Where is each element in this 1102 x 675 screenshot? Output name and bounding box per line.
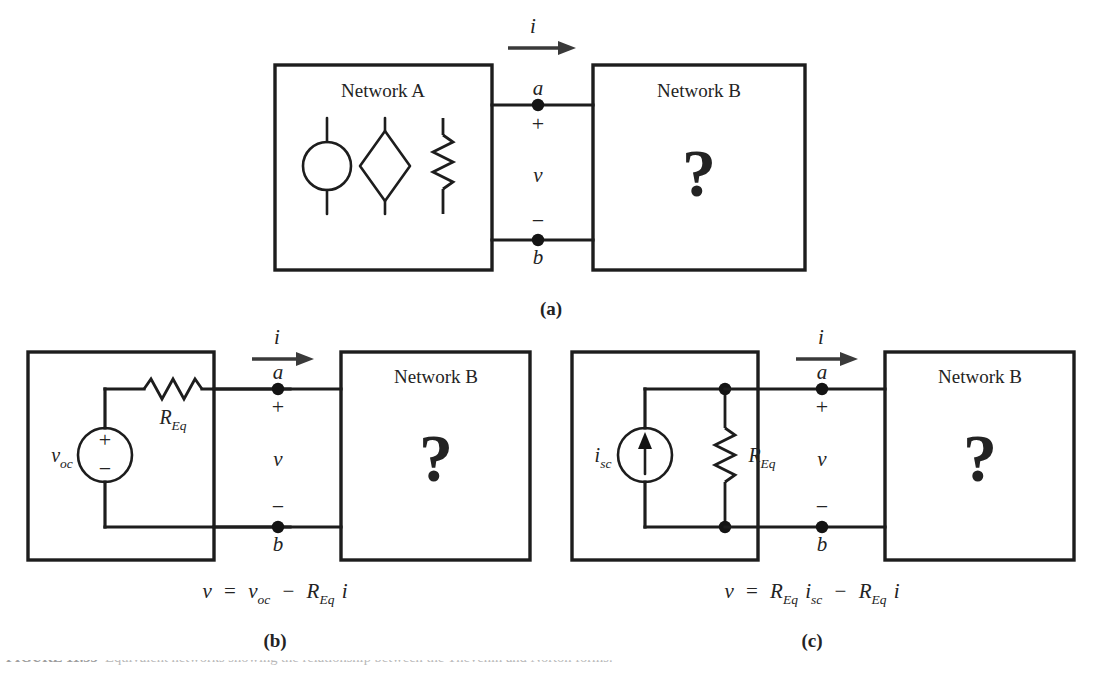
panel-a: Network A i a +: [275, 14, 805, 320]
panel-c-node-a-label: a: [817, 360, 828, 384]
panel-b-equation: v = voc − REq i: [202, 579, 347, 609]
panel-a-voltage-label: v: [533, 163, 543, 187]
panel-c-label: (c): [801, 630, 822, 652]
panel-a-minus-label: −: [532, 208, 544, 233]
panel-c-resistor-icon: [715, 389, 735, 527]
figure-caption-number: FIGURE 11.55: [6, 660, 98, 665]
current-source-icon: [618, 428, 672, 482]
panel-a-current-arrow-icon: [508, 41, 576, 55]
voltage-source-icon: + −: [78, 427, 132, 482]
current-source-label: isc: [595, 444, 612, 471]
panel-c: isc REq i a + v − b: [572, 325, 1074, 652]
panel-c-plus-label: +: [816, 394, 828, 419]
panel-a-question-mark: ?: [682, 135, 716, 211]
panel-c-minus-label: −: [816, 494, 828, 519]
panel-b-question-mark: ?: [419, 420, 453, 496]
panel-a-label: (a): [540, 298, 562, 320]
panel-a-network-b-title: Network B: [657, 80, 741, 101]
figure-caption-text: Equivalent networks showing the relation…: [105, 660, 613, 665]
panel-b: + − voc REq i a + v − b: [28, 325, 530, 652]
panel-c-current-label: i: [818, 325, 824, 349]
dependent-source-diamond-icon: [360, 118, 410, 214]
figure-root: Network A i a +: [0, 0, 1102, 675]
panel-b-minus-label: −: [272, 494, 284, 519]
panel-b-current-label: i: [274, 325, 280, 349]
figure-caption-strip: FIGURE 11.55 Equivalent networks showing…: [0, 660, 1102, 675]
panel-a-node-a-label: a: [533, 76, 544, 100]
panel-c-node-b-label: b: [817, 532, 828, 556]
panel-a-node-a-dot: [532, 99, 544, 111]
panel-c-network-b-title: Network B: [938, 366, 1022, 387]
independent-source-circle-icon: [303, 118, 351, 214]
panel-a-node-b-label: b: [533, 245, 544, 269]
panel-b-resistor-icon: [144, 379, 202, 399]
network-a-title: Network A: [341, 80, 425, 101]
panel-a-current-label: i: [530, 14, 536, 38]
panel-b-node-a-label: a: [273, 360, 284, 384]
panel-b-label: (b): [263, 630, 286, 652]
panel-c-voltage-label: v: [817, 447, 827, 471]
panel-c-equation: v = REq isc − REq i: [724, 579, 899, 609]
resistor-zigzag-icon: [433, 118, 453, 214]
panel-a-plus-label: +: [532, 111, 544, 136]
panel-b-plus-label: +: [272, 394, 284, 419]
panel-b-voltage-label: v: [273, 447, 283, 471]
voltage-source-label: voc: [51, 444, 73, 471]
voltage-source-plus: +: [99, 427, 111, 452]
panel-b-resistor-label: REq: [158, 406, 186, 433]
panel-c-resistor-label: REq: [747, 444, 775, 471]
circuit-diagram-canvas: Network A i a +: [0, 0, 1102, 675]
panel-b-node-b-label: b: [273, 532, 284, 556]
panel-b-network-b-title: Network B: [394, 366, 478, 387]
figure-caption: FIGURE 11.55 Equivalent networks showing…: [6, 660, 613, 666]
voltage-source-minus: −: [99, 456, 111, 481]
panel-c-question-mark: ?: [963, 420, 997, 496]
